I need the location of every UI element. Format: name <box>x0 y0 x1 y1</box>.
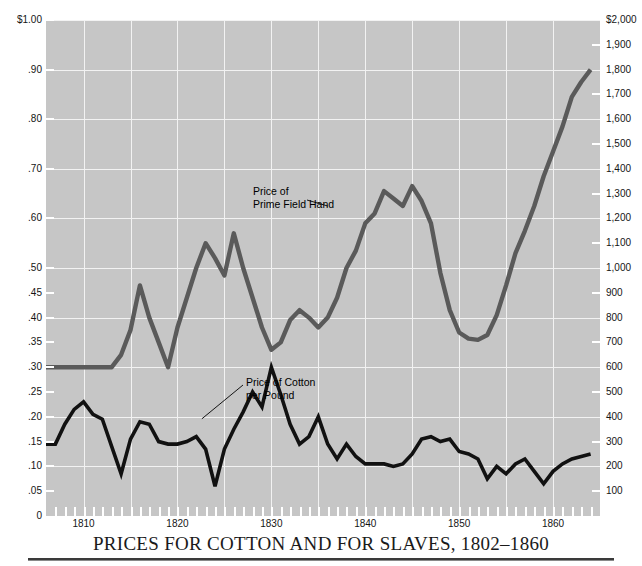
x-axis-tickmark <box>553 507 555 516</box>
cotton-price-annotation: Price of Cotton per Pound <box>246 376 315 402</box>
y2-axis-tickmark <box>592 93 600 95</box>
x-axis-tickmark <box>159 507 161 516</box>
y-axis-tick-label: .35 <box>0 337 42 347</box>
x-axis-tickmark <box>196 507 198 516</box>
slave-annotation-line2: Prime Field Hand <box>253 198 334 211</box>
y-axis-tick-label: .50 <box>0 263 42 273</box>
x-axis-tickmark <box>497 507 499 516</box>
x-axis-tickmark <box>431 507 433 516</box>
y2-axis-tickmark <box>592 44 600 46</box>
cotton-annotation-leader-line <box>202 385 243 419</box>
x-axis-tickmark <box>591 507 593 516</box>
x-axis-tickmark <box>215 507 217 516</box>
x-axis-tickmark <box>440 507 442 516</box>
x-axis-tickmark <box>271 507 273 516</box>
x-axis-tickmark <box>140 507 142 516</box>
x-axis-tickmark <box>525 507 527 516</box>
y2-axis-tick-label: 400 <box>606 412 642 422</box>
y2-axis-tick-label: 100 <box>606 486 642 496</box>
y2-axis-tick-label: 1,800 <box>606 65 642 75</box>
x-axis-tickmark <box>562 507 564 516</box>
x-axis-tickmark <box>365 507 367 516</box>
y-axis-tick-label: .80 <box>0 114 42 124</box>
x-axis-tickmark <box>393 507 395 516</box>
chart-title: PRICES FOR COTTON AND FOR SLAVES, 1802–1… <box>0 533 642 555</box>
x-axis-tickmark <box>102 507 104 516</box>
y-axis-tick-label: .60 <box>0 213 42 223</box>
y2-axis-tickmark <box>592 193 600 195</box>
y-axis-tick-label: $1.00 <box>0 15 42 25</box>
y2-axis-tickmark <box>592 490 600 492</box>
y-axis-tick-label: .05 <box>0 486 42 496</box>
x-axis-tickmark <box>506 507 508 516</box>
y2-axis-tick-label: 1,200 <box>606 213 642 223</box>
y-axis-tick-label: .15 <box>0 437 42 447</box>
y-axis-tick-label: 0 <box>0 511 42 521</box>
y-axis-tick-label: .45 <box>0 288 42 298</box>
x-axis-tick-label: 1850 <box>448 519 470 529</box>
chart-figure: $1.00.90.80.70.60.50.45.40.35.30.25.20.1… <box>0 0 642 566</box>
x-axis-tick-label: 1840 <box>354 519 376 529</box>
x-axis-tickmark <box>515 507 517 516</box>
cotton-annotation-line2: per Pound <box>246 389 315 402</box>
x-axis-tickmark <box>281 507 283 516</box>
y2-axis-tick-label: 1,900 <box>606 40 642 50</box>
y-axis-tick-label: .70 <box>0 164 42 174</box>
y2-axis-tick-label: 1,500 <box>606 139 642 149</box>
y-axis-tickmark <box>46 416 54 418</box>
x-axis-tickmark <box>93 507 95 516</box>
x-axis-tickmark <box>478 507 480 516</box>
y-axis-tick-label: .10 <box>0 461 42 471</box>
x-axis-tickmark <box>131 507 133 516</box>
x-axis-tickmark <box>121 507 123 516</box>
x-axis-tickmark <box>422 507 424 516</box>
y2-axis-tick-label: 1,700 <box>606 89 642 99</box>
y2-axis-tick-label: 900 <box>606 288 642 298</box>
y-axis-tick-label: .90 <box>0 65 42 75</box>
x-axis-tickmark <box>300 507 302 516</box>
y-axis-tickmark <box>46 490 54 492</box>
x-axis-tickmark <box>149 507 151 516</box>
x-axis-tickmark <box>177 507 179 516</box>
x-axis-tickmark <box>337 507 339 516</box>
y-axis-tickmark <box>46 441 54 443</box>
x-axis-tickmark <box>450 507 452 516</box>
y2-axis-tickmark <box>592 391 600 393</box>
x-axis-tickmark <box>55 507 57 516</box>
y-axis-tickmark <box>46 267 54 269</box>
y2-axis-tick-label: $2,000 <box>606 15 642 25</box>
y2-axis-tickmark <box>592 242 600 244</box>
slave-annotation-line1: Price of <box>253 185 334 198</box>
y2-axis-tick-label: 1,600 <box>606 114 642 124</box>
x-axis-tickmark <box>112 507 114 516</box>
y-axis-tickmark <box>46 292 54 294</box>
x-axis-tickmark <box>544 507 546 516</box>
y-axis-tickmark <box>46 69 54 71</box>
y-axis-tick-label: .30 <box>0 362 42 372</box>
x-axis-tickmark <box>168 507 170 516</box>
x-axis-tickmark <box>572 507 574 516</box>
x-axis-tickmark <box>234 507 236 516</box>
y-axis-tickmark <box>46 168 54 170</box>
y2-axis-tick-label: 500 <box>606 387 642 397</box>
x-axis-tick-label: 1820 <box>166 519 188 529</box>
x-axis-tickmark <box>187 507 189 516</box>
y-axis-tickmark <box>46 465 54 467</box>
x-axis-tickmarks <box>46 507 600 517</box>
x-axis-tickmark <box>581 507 583 516</box>
x-axis-tickmark <box>328 507 330 516</box>
x-axis-tickmark <box>243 507 245 516</box>
x-axis-tickmark <box>375 507 377 516</box>
y2-axis-tick-label: 1,400 <box>606 164 642 174</box>
x-axis-tickmark <box>262 507 264 516</box>
y-axis-tickmark <box>46 391 54 393</box>
y2-axis-tick-label: 600 <box>606 362 642 372</box>
y-axis-tickmark <box>46 341 54 343</box>
y2-axis-tick-label: 700 <box>606 337 642 347</box>
x-axis-tickmark <box>356 507 358 516</box>
plot-area <box>46 20 600 516</box>
x-axis-tickmark <box>346 507 348 516</box>
y-axis-tickmark <box>46 366 54 368</box>
x-axis-tickmark <box>384 507 386 516</box>
y2-axis-tick-label: 200 <box>606 461 642 471</box>
